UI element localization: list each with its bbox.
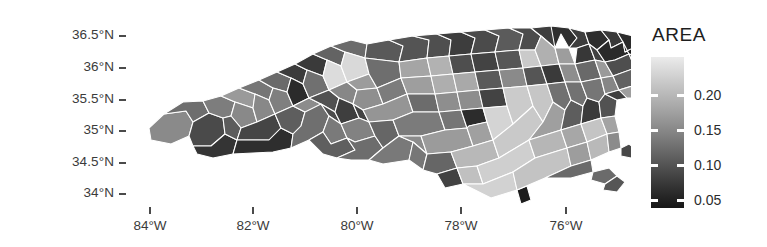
- x-tick-label: 82°W: [236, 218, 269, 233]
- colorbar-tick-mark: [651, 94, 658, 97]
- colorbar-tick-mark: [651, 164, 658, 167]
- colorbar-tick-label: 0.15: [694, 122, 721, 138]
- figure-canvas: 36.5°N36°N35.5°N35°N34.5°N34°N: [0, 0, 767, 247]
- x-tick-label: 84°W: [133, 218, 166, 233]
- legend-title: AREA: [652, 24, 706, 46]
- x-tick-mark: [565, 207, 567, 214]
- colorbar-tick-mark: [677, 94, 684, 97]
- colorbar-gradient: [651, 57, 684, 208]
- colorbar-tick-mark: [677, 164, 684, 167]
- legend: AREA 0.200.150.100.05: [650, 24, 767, 214]
- colorbar-tick-label: 0.20: [694, 87, 721, 103]
- colorbar-tick-mark: [677, 199, 684, 202]
- x-tick-mark: [252, 207, 254, 214]
- x-tick-label: 80°W: [340, 218, 373, 233]
- x-tick-label: 78°W: [444, 218, 477, 233]
- x-tick-mark: [460, 207, 462, 214]
- colorbar-tick-mark: [651, 199, 658, 202]
- x-tick-label: 76°W: [549, 218, 582, 233]
- colorbar-tick-label: 0.10: [694, 157, 721, 173]
- x-tick-mark: [149, 207, 151, 214]
- x-tick-mark: [356, 207, 358, 214]
- colorbar-tick-mark: [651, 129, 658, 132]
- colorbar-tick-label: 0.05: [694, 192, 721, 208]
- colorbar-tick-mark: [677, 129, 684, 132]
